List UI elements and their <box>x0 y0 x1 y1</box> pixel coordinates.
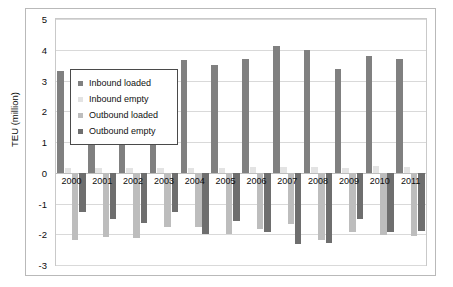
bar-group <box>395 19 426 265</box>
bar-inbound-empty-2003 <box>157 168 164 173</box>
bar-inbound-empty-2001 <box>95 168 102 172</box>
chart-figure: TEU (million) 543210-1-2-3 2000200120022… <box>0 0 453 287</box>
y-tick-label: -1 <box>39 198 47 209</box>
x-tick-label-2007: 2007 <box>277 176 297 186</box>
bar-group <box>303 19 334 265</box>
bar-group <box>334 19 365 265</box>
x-tick-label-2003: 2003 <box>154 176 174 186</box>
y-tick-label: 2 <box>42 106 47 117</box>
legend-item-outbound-empty: Outbound empty <box>78 123 171 139</box>
bar-inbound-empty-2004 <box>188 168 195 173</box>
y-tick-label: 3 <box>42 75 47 86</box>
bar-inbound-loaded-2008 <box>304 50 311 173</box>
y-tick-label: 5 <box>42 14 47 25</box>
legend-swatch-icon <box>78 97 83 102</box>
bar-inbound-empty-2000 <box>65 168 72 172</box>
x-tick-label-2008: 2008 <box>308 176 328 186</box>
bar-group <box>272 19 303 265</box>
y-tick-label: 1 <box>42 137 47 148</box>
legend-label: Outbound empty <box>89 126 156 136</box>
bar-inbound-loaded-2000 <box>57 71 64 172</box>
y-tick-label: 4 <box>42 44 47 55</box>
bar-inbound-loaded-2009 <box>335 69 342 172</box>
legend-swatch-icon <box>78 113 83 118</box>
x-tick-label-2002: 2002 <box>123 176 143 186</box>
legend-label: Outbound loaded <box>89 110 158 120</box>
y-tick-label: -3 <box>39 260 47 271</box>
bar-inbound-empty-2006 <box>250 167 257 173</box>
legend-swatch-icon <box>78 81 83 86</box>
bar-inbound-loaded-2006 <box>242 59 249 173</box>
legend-item-inbound-loaded: Inbound loaded <box>78 75 171 91</box>
legend-label: Inbound loaded <box>89 78 151 88</box>
x-tick-label-2001: 2001 <box>92 176 112 186</box>
bar-inbound-loaded-2011 <box>396 59 403 173</box>
x-tick-label-2009: 2009 <box>339 176 359 186</box>
bar-group <box>364 19 395 265</box>
chart-legend: Inbound loadedInbound emptyOutbound load… <box>70 69 178 145</box>
legend-item-outbound-loaded: Outbound loaded <box>78 107 171 123</box>
bar-inbound-empty-2005 <box>219 168 226 173</box>
bar-inbound-empty-2011 <box>404 167 411 173</box>
legend-item-inbound-empty: Inbound empty <box>78 91 171 107</box>
x-tick-label-2000: 2000 <box>61 176 81 186</box>
bar-group <box>241 19 272 265</box>
bar-inbound-empty-2010 <box>373 166 380 173</box>
y-tick-label: -2 <box>39 229 47 240</box>
legend-swatch-icon <box>78 129 83 134</box>
bar-inbound-empty-2002 <box>126 168 133 173</box>
bar-inbound-loaded-2010 <box>366 56 373 173</box>
y-tick-label: 0 <box>42 167 47 178</box>
x-tick-label-2010: 2010 <box>370 176 390 186</box>
y-axis-labels: TEU (million) 543210-1-2-3 <box>0 18 53 266</box>
bar-inbound-empty-2008 <box>311 167 318 173</box>
bar-group <box>179 19 210 265</box>
bar-inbound-empty-2009 <box>342 168 349 173</box>
gridline <box>56 265 426 266</box>
bar-group <box>210 19 241 265</box>
x-tick-label-2011: 2011 <box>401 176 420 186</box>
x-tick-label-2005: 2005 <box>216 176 236 186</box>
bar-inbound-loaded-2007 <box>273 46 280 173</box>
bar-inbound-empty-2007 <box>280 167 287 173</box>
y-axis-title: TEU (million) <box>9 60 20 180</box>
x-tick-label-2004: 2004 <box>185 176 205 186</box>
bar-inbound-loaded-2004 <box>181 60 188 173</box>
legend-label: Inbound empty <box>89 94 149 104</box>
bar-inbound-loaded-2005 <box>211 65 218 173</box>
x-tick-label-2006: 2006 <box>246 176 266 186</box>
